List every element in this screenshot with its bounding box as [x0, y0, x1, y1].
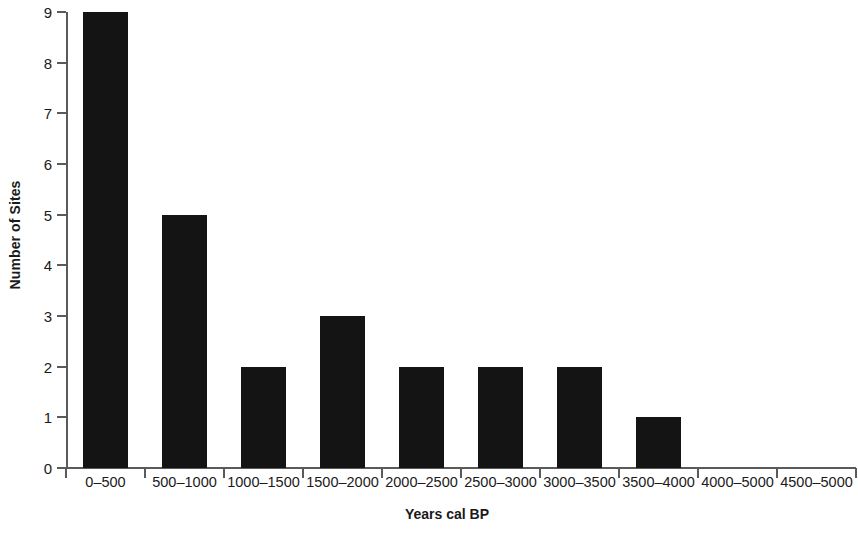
bar — [241, 367, 286, 468]
bar — [636, 417, 681, 468]
x-axis-tick-label: 1500–2000 — [306, 474, 379, 490]
y-axis-tick — [57, 366, 66, 368]
y-axis-tick-label: 4 — [18, 257, 52, 274]
bar-chart: Number of Sites 0123456789 0–500500–1000… — [0, 0, 858, 537]
y-axis-tick — [57, 214, 66, 216]
y-axis-tick-labels: 0123456789 — [14, 12, 52, 469]
bar — [162, 215, 207, 468]
bar — [557, 367, 602, 468]
y-axis-tick-label: 2 — [18, 358, 52, 375]
bar — [83, 12, 128, 468]
x-axis-title: Years cal BP — [0, 506, 858, 522]
plot-area: 0123456789 — [66, 12, 856, 468]
x-axis-tick-label: 1000–1500 — [227, 474, 300, 490]
x-axis-tick-label: 4000–5000 — [701, 474, 774, 490]
y-axis-tick-label: 8 — [18, 54, 52, 71]
x-axis-tick-labels: 0–500500–10001000–15001500–20002000–2500… — [66, 474, 856, 498]
y-axis-tick — [57, 416, 66, 418]
y-axis-tick-label: 5 — [18, 206, 52, 223]
y-axis-tick — [57, 112, 66, 114]
x-axis-title-text: Years cal BP — [369, 506, 489, 522]
bar — [399, 367, 444, 468]
y-axis-tick — [57, 163, 66, 165]
x-axis-tick-label: 3500–4000 — [622, 474, 695, 490]
bar — [478, 367, 523, 468]
x-axis-tick-label: 2000–2500 — [385, 474, 458, 490]
x-axis-tick-label: 500–1000 — [152, 474, 217, 490]
y-axis-tick-label: 9 — [18, 4, 52, 21]
y-axis-tick-label: 1 — [18, 409, 52, 426]
x-axis-tick-label: 3000–3500 — [543, 474, 616, 490]
y-axis-tick-label: 7 — [18, 105, 52, 122]
x-axis-tick-label: 0–500 — [85, 474, 125, 490]
y-axis-tick — [57, 11, 66, 13]
y-axis-tick-label: 6 — [18, 156, 52, 173]
x-axis-tick-label: 4500–5000 — [780, 474, 853, 490]
y-axis-tick-label: 3 — [18, 308, 52, 325]
bar — [320, 316, 365, 468]
x-axis-tick-label: 2500–3000 — [464, 474, 537, 490]
y-axis-tick — [57, 264, 66, 266]
y-axis-line — [66, 12, 68, 469]
y-axis-tick — [57, 62, 66, 64]
y-axis-tick — [57, 315, 66, 317]
y-axis-tick-label: 0 — [18, 460, 52, 477]
